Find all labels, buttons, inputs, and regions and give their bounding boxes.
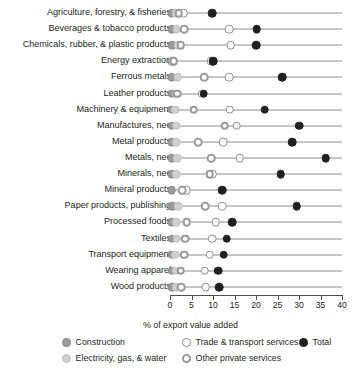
x-axis-tick-label: 5 xyxy=(189,301,194,310)
data-point-electricity xyxy=(172,122,181,131)
x-axis-title: % of export value added xyxy=(0,320,355,330)
row-baseline xyxy=(170,270,342,271)
data-point-electricity xyxy=(172,218,181,227)
x-axis-tick-label: 10 xyxy=(208,301,218,310)
category-label: Energy extraction xyxy=(101,57,171,66)
data-point-other xyxy=(180,250,189,259)
category-label: Paper products, publishing xyxy=(65,202,171,211)
legend-item-other[interactable]: Other private services xyxy=(182,354,281,363)
category-label: Processed foods xyxy=(104,218,171,227)
legend-marker-other-icon xyxy=(182,354,191,363)
data-point-construction xyxy=(167,186,176,195)
chart-row: Leather products xyxy=(0,86,355,102)
data-point-total xyxy=(293,202,302,211)
row-baseline xyxy=(170,158,342,159)
row-baseline xyxy=(170,61,342,62)
data-point-other xyxy=(205,170,214,179)
category-label: Agriculture, forestry, & fisheries xyxy=(47,9,171,18)
category-label: Chemicals, rubber, & plastic products xyxy=(23,41,171,50)
data-point-total xyxy=(295,122,304,131)
data-point-total xyxy=(260,105,269,114)
chart-row: Chemicals, rubber, & plastic products xyxy=(0,37,355,53)
dot-plot-chart: Agriculture, forestry, & fisheriesBevera… xyxy=(0,0,355,375)
data-point-other xyxy=(200,73,209,82)
chart-row: Metals, nec xyxy=(0,150,355,166)
data-point-other xyxy=(181,234,190,243)
data-point-trade xyxy=(201,267,210,276)
data-point-other xyxy=(180,25,189,34)
x-axis: 0510152025303540 xyxy=(0,295,355,321)
legend-label: Electricity, gas, & water xyxy=(76,354,167,363)
data-point-other xyxy=(220,122,229,131)
data-point-total xyxy=(219,250,228,259)
data-point-trade xyxy=(208,234,217,243)
category-label: Manufactures, nec xyxy=(97,121,171,130)
chart-row: Manufactures, nec xyxy=(0,118,355,134)
data-point-other xyxy=(182,218,191,227)
category-label: Wood products xyxy=(111,282,171,291)
data-point-total xyxy=(199,89,208,98)
data-point-total xyxy=(208,9,217,18)
data-point-total xyxy=(214,267,223,276)
chart-row: Energy extraction xyxy=(0,53,355,69)
category-label: Transport equipment xyxy=(88,250,171,259)
chart-row: Transport equipment xyxy=(0,247,355,263)
category-label: Metal products xyxy=(112,137,171,146)
data-point-electricity xyxy=(171,105,180,114)
row-baseline xyxy=(170,13,342,14)
data-point-other xyxy=(189,105,198,114)
data-point-total xyxy=(222,234,231,243)
data-point-trade xyxy=(225,25,234,34)
legend-marker-total-icon xyxy=(299,338,308,347)
x-axis-tick-label: 15 xyxy=(230,301,240,310)
legend-label: Total xyxy=(313,338,332,347)
data-point-electricity xyxy=(174,202,183,211)
data-point-trade xyxy=(232,122,241,131)
row-baseline xyxy=(170,286,342,287)
category-label: Wearing apparel xyxy=(105,266,171,275)
data-point-total xyxy=(218,186,227,195)
category-label: Minerals, nec xyxy=(118,170,171,179)
data-point-other xyxy=(178,186,187,195)
data-point-other xyxy=(170,57,179,66)
legend-item-electricity[interactable]: Electricity, gas, & water xyxy=(62,354,166,363)
row-baseline xyxy=(170,222,342,223)
legend-item-total[interactable]: Total xyxy=(299,338,331,347)
data-point-electricity xyxy=(171,250,180,259)
data-point-electricity xyxy=(173,73,182,82)
x-axis-title-label: % of export value added xyxy=(117,320,238,330)
legend-item-construction[interactable]: Construction xyxy=(62,338,125,347)
data-point-other xyxy=(194,138,203,147)
x-axis-tick-label: 35 xyxy=(316,301,326,310)
data-point-trade xyxy=(226,41,235,50)
x-axis-tick-label: 30 xyxy=(294,301,304,310)
data-point-trade xyxy=(225,73,234,82)
data-point-trade xyxy=(211,218,220,227)
chart-row: Agriculture, forestry, & fisheries xyxy=(0,5,355,21)
data-point-other xyxy=(201,202,210,211)
row-baseline xyxy=(170,125,342,126)
chart-row: Ferrous metals xyxy=(0,69,355,85)
chart-plot-area: Agriculture, forestry, & fisheriesBevera… xyxy=(0,5,355,295)
row-baseline xyxy=(170,77,342,78)
chart-row: Minerals, nec xyxy=(0,166,355,182)
data-point-total xyxy=(252,41,261,50)
data-point-other xyxy=(207,154,216,163)
data-point-trade xyxy=(218,202,227,211)
data-point-total xyxy=(209,57,218,66)
category-label: Metals, nec xyxy=(125,154,171,163)
x-axis-tick-label: 40 xyxy=(337,301,347,310)
data-point-other xyxy=(176,41,185,50)
data-point-other xyxy=(177,283,186,292)
data-point-other xyxy=(173,89,182,98)
chart-row: Wearing apparel xyxy=(0,263,355,279)
category-label: Beverages & tobacco products xyxy=(49,25,171,34)
legend-label: Trade & transport services xyxy=(196,338,299,347)
category-label: Machinery & equipment xyxy=(77,105,171,114)
chart-row: Wood products xyxy=(0,279,355,295)
data-point-trade xyxy=(205,250,214,259)
legend-marker-electricity-icon xyxy=(62,354,71,363)
legend-item-trade[interactable]: Trade & transport services xyxy=(182,338,298,347)
legend-label: Construction xyxy=(76,338,125,347)
data-point-total xyxy=(278,73,287,82)
